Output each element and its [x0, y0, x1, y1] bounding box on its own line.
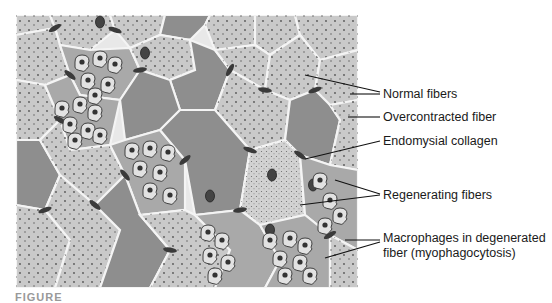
label-regenerating-fibers: Regenerating fibers: [383, 188, 492, 202]
macrophage: [88, 105, 102, 121]
macrophage: [75, 55, 89, 71]
macrophage: [88, 88, 102, 104]
macrophage: [263, 233, 277, 249]
macrophage: [125, 143, 139, 159]
label-endomysial-collagen: Endomysial collagen: [383, 134, 498, 148]
macrophage: [161, 145, 175, 161]
macrophage: [93, 51, 107, 67]
macrophage: [318, 218, 332, 234]
fiber-mosaic: [16, 15, 358, 288]
label-macrophages-line2: fiber (myophagocytosis): [383, 246, 516, 260]
macrophage: [73, 97, 87, 113]
macrophage: [81, 73, 95, 89]
macrophage: [55, 101, 69, 117]
central-nucleus: [96, 16, 105, 28]
macrophage: [313, 173, 327, 189]
figure-caption: FIGURE: [15, 291, 63, 303]
macrophage: [273, 251, 287, 267]
macrophage: [215, 233, 229, 249]
macrophage: [153, 165, 167, 181]
macrophage: [201, 225, 215, 241]
label-overcontracted-fiber: Overcontracted fiber: [383, 110, 496, 124]
macrophage: [208, 268, 222, 284]
macrophage: [293, 255, 307, 271]
macrophage: [143, 183, 157, 199]
label-normal-fibers: Normal fibers: [383, 87, 457, 101]
macrophage: [143, 141, 157, 157]
macrophage: [133, 161, 147, 177]
central-nucleus: [141, 47, 150, 59]
macrophage: [68, 133, 82, 149]
macrophage: [63, 117, 77, 133]
macrophage: [203, 248, 217, 264]
central-nucleus: [206, 190, 215, 202]
macrophage: [101, 77, 115, 93]
macrophage: [298, 238, 312, 254]
central-nucleus: [268, 169, 277, 181]
macrophage: [278, 268, 292, 284]
macrophage: [333, 208, 347, 224]
macrophage: [163, 188, 177, 204]
label-macrophages-line1: Macrophages in degenerated: [383, 231, 546, 245]
macrophage: [221, 255, 235, 271]
macrophage: [303, 268, 317, 284]
macrophage: [93, 128, 107, 144]
macrophage: [283, 231, 297, 247]
macrophage: [108, 57, 122, 73]
